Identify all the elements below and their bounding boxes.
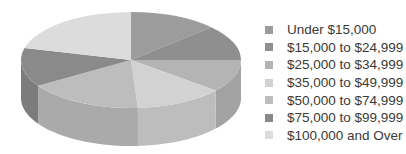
legend-label: $75,000 to $99,999	[287, 110, 403, 125]
legend-label: $35,000 to $49,999	[287, 75, 403, 90]
legend: Under $15,000 $15,000 to $24,999 $25,000…	[265, 21, 403, 144]
pie-chart	[0, 0, 250, 154]
legend-label: $50,000 to $74,999	[287, 93, 403, 108]
legend-swatch-icon	[265, 79, 273, 87]
legend-item: $75,000 to $99,999	[265, 109, 403, 127]
pie-top	[21, 12, 241, 108]
legend-swatch-icon	[265, 114, 273, 122]
legend-swatch-icon	[265, 26, 273, 34]
legend-label: $15,000 to $24,999	[287, 40, 403, 55]
legend-item: $100,000 and Over	[265, 127, 403, 145]
legend-label: Under $15,000	[287, 22, 376, 37]
legend-swatch-icon	[265, 96, 273, 104]
legend-item: Under $15,000	[265, 21, 403, 39]
legend-item: $25,000 to $34,999	[265, 56, 403, 74]
legend-swatch-icon	[265, 61, 273, 69]
legend-item: $50,000 to $74,999	[265, 91, 403, 109]
legend-item: $35,000 to $49,999	[265, 74, 403, 92]
legend-label: $25,000 to $34,999	[287, 57, 403, 72]
legend-label: $100,000 and Over	[287, 128, 403, 143]
legend-item: $15,000 to $24,999	[265, 39, 403, 57]
legend-swatch-icon	[265, 43, 273, 51]
legend-swatch-icon	[265, 131, 273, 139]
